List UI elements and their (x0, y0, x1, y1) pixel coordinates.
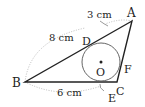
label-f: F (124, 63, 132, 76)
measure-bd: 8 cm (49, 32, 74, 43)
label-b: B (12, 76, 21, 90)
center-point (100, 61, 103, 64)
geometry-diagram: A B C D E F O 3 cm 8 cm 6 cm (0, 0, 145, 107)
measure-ad: 3 cm (87, 9, 112, 20)
pointer-e (100, 84, 104, 91)
label-c: C (116, 85, 124, 98)
label-e: E (108, 92, 116, 105)
label-a: A (126, 6, 136, 20)
label-d: D (82, 35, 91, 48)
label-o: O (96, 66, 105, 79)
triangle-abc (25, 21, 132, 82)
measure-be: 6 cm (57, 87, 82, 98)
